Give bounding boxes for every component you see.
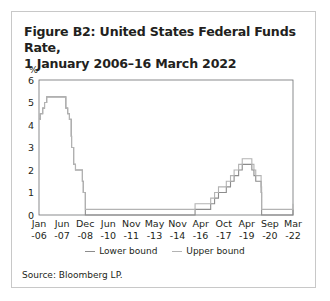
- x-tick-label: Jan: [31, 218, 47, 229]
- x-tick-label: Sep: [261, 218, 279, 229]
- y-tick-label: 1: [28, 187, 34, 198]
- x-tick-label: Oct: [216, 218, 233, 229]
- x-tick-label: May: [145, 218, 165, 229]
- x-tick-label-year: -14: [170, 230, 186, 241]
- series-lines: [39, 97, 293, 215]
- y-tick-label: 3: [28, 142, 34, 153]
- x-tick-label: Dec: [76, 218, 94, 229]
- x-tick-label-year: -06: [31, 230, 47, 241]
- x-tick-label: Apr: [192, 218, 209, 229]
- x-tick-label: Apr: [239, 218, 256, 229]
- x-tick-label-year: -13: [147, 230, 163, 241]
- x-tick-label: Nov: [122, 218, 141, 229]
- x-tick-label: Nov: [168, 218, 187, 229]
- x-tick-label-year: -11: [124, 230, 140, 241]
- x-tick-label-year: -16: [193, 230, 209, 241]
- x-tick-label: Mar: [284, 218, 302, 229]
- legend-label-lower: Lower bound: [99, 246, 157, 256]
- x-tick-label-year: -17: [216, 230, 232, 241]
- legend: Lower bound Upper bound: [0, 246, 330, 256]
- x-tick-label: Jun: [54, 218, 70, 229]
- y-tick-label: 6: [28, 75, 34, 86]
- plot-frame: [39, 80, 293, 215]
- lower-bound-line: [39, 97, 293, 215]
- y-tick-label: 5: [28, 97, 34, 108]
- x-tick-label-year: -22: [285, 230, 301, 241]
- y-tick-label: 4: [28, 120, 34, 131]
- y-axis-label: %: [29, 64, 38, 75]
- x-tick-label-year: -19: [239, 230, 255, 241]
- y-tick-label: 2: [28, 165, 34, 176]
- upper-bound-swatch-icon: [172, 251, 182, 253]
- legend-label-upper: Upper bound: [186, 246, 244, 256]
- upper-bound-line: [39, 97, 293, 210]
- x-tick-label-year: -10: [101, 230, 117, 241]
- x-tick-label-year: -20: [262, 230, 278, 241]
- legend-item-lower: Lower bound: [85, 246, 157, 256]
- legend-item-upper: Upper bound: [172, 246, 244, 256]
- source-note: Source: Bloomberg LP.: [22, 270, 123, 280]
- lower-bound-swatch-icon: [85, 251, 95, 253]
- x-tick-label-year: -08: [77, 230, 93, 241]
- x-tick-label-year: -07: [54, 230, 70, 241]
- x-tick-label: Jun: [100, 218, 116, 229]
